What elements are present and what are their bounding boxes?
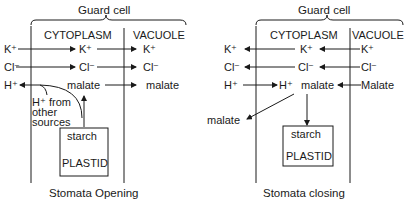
ion-cl-outside-left: Cl⁻ bbox=[4, 61, 20, 73]
caption-stomata-opening: Stomata Opening bbox=[49, 187, 139, 199]
ion-h-outside-left: H⁺ bbox=[4, 79, 18, 91]
guard-cell-brace-right bbox=[256, 15, 403, 25]
ion-k-cytoplasm-right: K⁺ bbox=[300, 43, 313, 55]
caption-stomata-closing: Stomata closing bbox=[263, 187, 345, 199]
ion-cl-cytoplasm-left: Cl⁻ bbox=[79, 61, 95, 73]
ion-cl-vacuole-left: Cl⁻ bbox=[143, 61, 159, 73]
vacuole-label-left: VACUOLE bbox=[133, 29, 185, 41]
ion-k-vacuole-left: K⁺ bbox=[143, 43, 156, 55]
malate-outside-right: malate bbox=[207, 114, 240, 126]
hplus-note-line3: sources bbox=[32, 116, 71, 128]
ion-cl-vacuole-right: Cl⁻ bbox=[361, 61, 377, 73]
malate-cytoplasm-right: malate bbox=[301, 79, 334, 91]
starch-label-right: starch bbox=[291, 128, 321, 140]
malate-vacuole-right: Malate bbox=[361, 79, 394, 91]
ion-k-outside-left: K⁺ bbox=[4, 43, 17, 55]
guard-cell-label-right: Guard cell bbox=[298, 4, 350, 16]
plastid-label-right: PLASTID bbox=[286, 150, 332, 162]
ion-cl-cytoplasm-right: Cl⁻ bbox=[298, 61, 314, 73]
vacuole-label-right: VACUOLE bbox=[352, 29, 404, 41]
ion-k-outside-right: K⁺ bbox=[224, 43, 237, 55]
cytoplasm-label-right: CYTOPLASM bbox=[270, 29, 338, 41]
malate-vacuole-left: malate bbox=[146, 79, 179, 91]
ion-k-cytoplasm-left: K⁺ bbox=[79, 43, 92, 55]
starch-label-left: starch bbox=[67, 130, 97, 142]
plastid-label-left: PLASTID bbox=[62, 157, 108, 169]
cytoplasm-label-left: CYTOPLASM bbox=[44, 29, 112, 41]
ion-k-vacuole-right: K⁺ bbox=[361, 43, 374, 55]
malate-cytoplasm-left: malate bbox=[67, 79, 100, 91]
ion-h-outside-right: H⁺ bbox=[224, 79, 238, 91]
ion-h-cytoplasm-right: H⁺ bbox=[279, 79, 293, 91]
guard-cell-brace-left bbox=[31, 15, 186, 25]
guard-cell-label-left: Guard cell bbox=[78, 4, 130, 16]
ion-cl-outside-right: Cl⁻ bbox=[224, 61, 240, 73]
